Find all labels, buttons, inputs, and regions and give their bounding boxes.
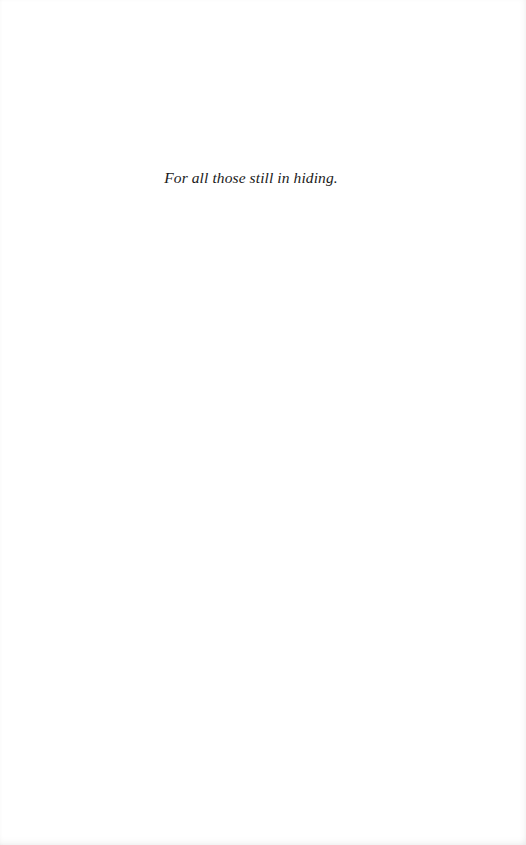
dedication-text: For all those still in hiding.	[0, 168, 502, 188]
book-page: For all those still in hiding.	[0, 0, 526, 845]
